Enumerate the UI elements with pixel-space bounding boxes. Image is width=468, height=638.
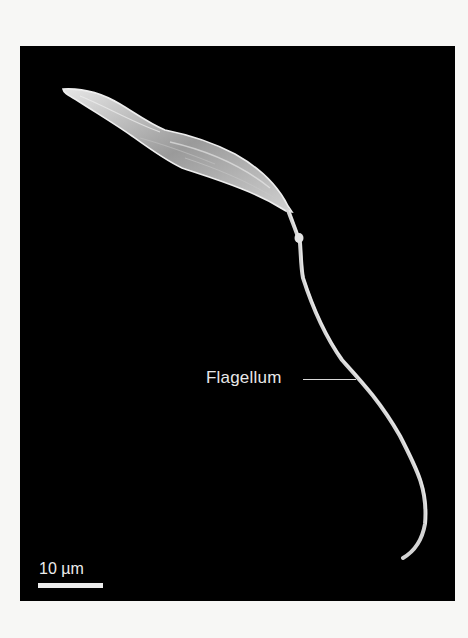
flagellum: [288, 210, 426, 558]
scale-bar-label: 10 µm: [39, 560, 84, 578]
cell-body: [63, 89, 292, 212]
flagellum-label: Flagellum: [206, 368, 282, 388]
scale-bar: [38, 583, 103, 588]
specimen-illustration: [20, 46, 455, 601]
flagellum-leader-line: [303, 379, 356, 380]
micrograph-panel: Flagellum 10 µm: [20, 46, 455, 601]
